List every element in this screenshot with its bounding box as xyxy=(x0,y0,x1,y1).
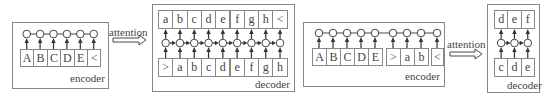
rnn-node xyxy=(403,29,411,37)
rnn-node xyxy=(248,39,256,47)
connections-layer xyxy=(0,0,552,101)
rnn-node xyxy=(357,29,365,37)
rnn-node xyxy=(524,39,532,47)
rnn-node xyxy=(190,39,198,47)
rnn-node xyxy=(23,30,31,38)
rnn-node xyxy=(262,39,270,47)
rnn-node xyxy=(433,29,441,37)
rnn-node xyxy=(162,39,170,47)
rnn-node xyxy=(63,30,71,38)
rnn-node xyxy=(176,39,184,47)
rnn-node xyxy=(315,29,323,37)
rnn-node xyxy=(276,39,284,47)
rnn-node xyxy=(371,29,379,37)
attention-arrow-icon xyxy=(113,35,146,45)
rnn-node xyxy=(219,39,227,47)
rnn-node xyxy=(77,30,85,38)
rnn-node xyxy=(329,29,337,37)
rnn-node xyxy=(233,39,241,47)
attention-arrow-icon xyxy=(450,49,482,59)
rnn-node xyxy=(205,39,213,47)
rnn-node xyxy=(343,29,351,37)
rnn-node xyxy=(511,39,519,47)
rnn-node xyxy=(417,29,425,37)
rnn-node xyxy=(90,30,98,38)
rnn-node xyxy=(497,39,505,47)
rnn-node xyxy=(50,30,58,38)
rnn-node xyxy=(36,30,44,38)
seq2seq-attention-diagram: attentionattentionencoderABCDE<decodera>… xyxy=(0,0,552,101)
rnn-node xyxy=(389,29,397,37)
